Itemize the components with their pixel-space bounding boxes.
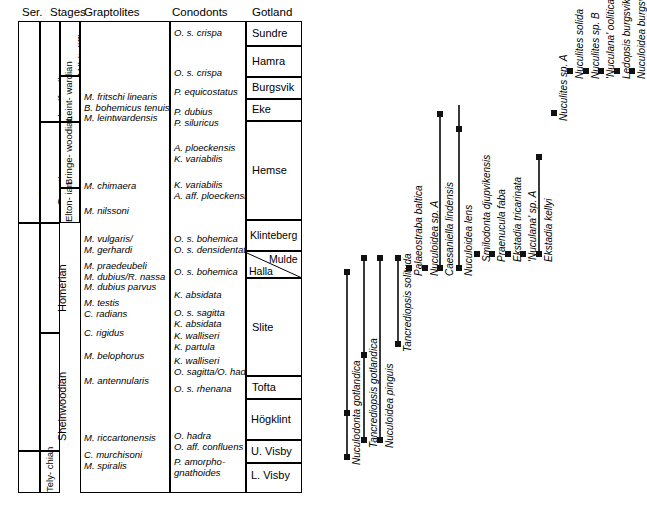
graptolite-entry: M. vulgaris/ M. gerhardi xyxy=(84,234,133,255)
taxon-label: Ekstadia tricarinata xyxy=(512,177,523,262)
conodont-entry: K. walliseri O. sagitta/O. hadra xyxy=(174,356,254,377)
graptolite-entry: C. rigidus xyxy=(84,328,124,339)
graptolite-entry: C. murchisoni M. spiralis xyxy=(84,450,142,471)
taxon-label: Tancrediopsis gotlandica xyxy=(368,338,379,448)
column-header-graptolites: Graptolites xyxy=(84,6,140,18)
range-marker xyxy=(406,265,412,271)
series-cell-llandovery: Ll. xyxy=(18,451,40,493)
range-marker xyxy=(395,255,401,261)
gotland-label: Halla xyxy=(249,265,273,277)
conodont-entry: P. dubius P. siluricus xyxy=(174,107,219,128)
gotland-unit-hamra: Hamra xyxy=(246,46,302,77)
range-marker xyxy=(361,437,367,443)
gotland-unit-lower-visby: L. Visby xyxy=(246,463,302,493)
stratigraphic-column-table: Ser. Stages Graptolites Conodonts Gotlan… xyxy=(8,6,302,498)
range-marker xyxy=(598,68,604,74)
graptolite-entry: M. riccartonensis xyxy=(84,433,156,444)
range-marker xyxy=(520,251,526,257)
gotland-unit-mulde-halla: Mulde Halla xyxy=(246,251,302,278)
conodont-entry: O. s. bohemica O. s. densidentata xyxy=(174,234,251,255)
column-header-conodonts: Conodonts xyxy=(172,6,228,18)
conodont-entry: K. walliseri K. partula xyxy=(174,331,219,352)
gotland-label: Tofta xyxy=(252,381,276,393)
series-cell-wenlock: Wenlock xyxy=(18,223,40,451)
stage-label-sheinwoodian: Sheinwoodian xyxy=(56,372,68,441)
graptolite-entry: M. chimaera xyxy=(84,181,136,192)
taxon-label: Nuculoidea lens xyxy=(463,205,474,276)
gotland-unit-klinteberg: Klinteberg xyxy=(246,220,302,251)
gotland-label: Eke xyxy=(252,103,271,115)
conodont-entry: O. s. rhenana xyxy=(174,384,232,395)
taxon-label: Palaeostraba baltica xyxy=(413,185,424,276)
substage-cell-eltonian: Elton- ian xyxy=(60,188,80,223)
range-marker xyxy=(377,437,383,443)
substage-label-leintwardian: Leint- wardian xyxy=(64,61,74,121)
range-marker xyxy=(551,110,557,116)
gotland-label: Mulde xyxy=(269,253,298,265)
range-marker xyxy=(344,269,350,275)
conodont-entry: O. hadra O. aff. confluens xyxy=(174,431,243,452)
range-marker xyxy=(474,251,480,257)
range-marker xyxy=(614,68,620,74)
range-marker xyxy=(629,68,635,74)
range-marker xyxy=(395,341,401,347)
taxon-label: Ekstadia kellyi xyxy=(543,199,554,262)
range-marker xyxy=(361,255,367,261)
gotland-label: Slite xyxy=(252,321,273,333)
range-marker xyxy=(437,111,443,117)
gotland-label: Burgsvik xyxy=(252,81,294,93)
range-bar xyxy=(363,258,364,440)
gotland-label: L. Visby xyxy=(251,469,290,481)
conodont-entry: P. equicostatus xyxy=(174,87,238,98)
range-marker xyxy=(536,251,542,257)
range-marker xyxy=(437,265,443,271)
taxon-label: Nuculoidea burgsvikensis xyxy=(636,0,647,79)
gotland-unit-hogklint: Högklint xyxy=(246,399,302,440)
conodont-entry: O. s. sagitta K. absidata xyxy=(174,308,225,329)
range-marker xyxy=(456,265,462,271)
graptolite-entry: M. nilssoni xyxy=(84,206,129,217)
range-marker xyxy=(567,68,573,74)
column-header-series: Ser. xyxy=(22,6,42,18)
series-cell-ludlow: Ludlow xyxy=(18,21,40,223)
stage-cell-telychian: Tely- chian xyxy=(40,451,60,493)
substage-label-bringewoodian: Bringe- woodian xyxy=(64,116,74,185)
stage-cell-gorstian: Gorstian xyxy=(40,122,60,223)
stage-cell-sheinwoodian: Sheinwoodian xyxy=(40,333,60,451)
conodont-entry: P. amorpho- gnathoides xyxy=(174,457,225,478)
taxon-label: Caesaniella lindensis xyxy=(444,182,455,276)
conodont-entry: O. s. crispa xyxy=(174,68,222,79)
substage-cell-bringewoodian: Bringe- woodian xyxy=(60,122,80,188)
graptolite-entry: M. belophorus xyxy=(84,351,144,362)
conodont-entry: K. variabilis A. aff. ploeckensis xyxy=(174,180,251,201)
range-marker xyxy=(344,410,350,416)
range-bar xyxy=(346,272,347,457)
stage-label-homerian: Homerian xyxy=(56,264,68,312)
graptolite-entry: M. praedeubeli M. dubius/R. nassa M. dub… xyxy=(84,261,165,293)
range-marker xyxy=(536,154,542,160)
graptolite-entry: M. antennularis xyxy=(84,376,149,387)
taxon-label: Nuculites sp. A xyxy=(558,55,569,121)
taxon-range-chart: Nuculodonta gotlandicaTancrediopsis gotl… xyxy=(302,0,641,506)
taxon-label: Nuculodonta gotlandica xyxy=(351,360,362,465)
range-marker xyxy=(422,265,428,271)
gotland-label: Högklint xyxy=(251,413,291,425)
range-bar xyxy=(439,114,440,268)
taxon-label: Nuculoidea pinguis xyxy=(384,363,395,448)
range-marker xyxy=(583,68,589,74)
gotland-label: Hamra xyxy=(252,55,285,67)
stage-cell-ludfordian: Ludfordian xyxy=(40,21,60,122)
stage-label-telychian: Tely- chian xyxy=(45,447,55,492)
range-marker xyxy=(377,255,383,261)
gotland-unit-tofta: Tofta xyxy=(246,376,302,399)
taxon-label: Smilodonta djupvikensis xyxy=(481,155,492,262)
gotland-label: U. Visby xyxy=(251,445,292,457)
gotland-unit-hemse: Hemse xyxy=(246,121,302,220)
gotland-unit-slite: Slite xyxy=(246,278,302,376)
range-bar xyxy=(397,258,398,344)
range-bar xyxy=(538,157,539,254)
gotland-unit-upper-visby: U. Visby xyxy=(246,440,302,463)
range-marker xyxy=(505,251,511,257)
substage-label-eltonian: Elton- ian xyxy=(64,182,74,222)
